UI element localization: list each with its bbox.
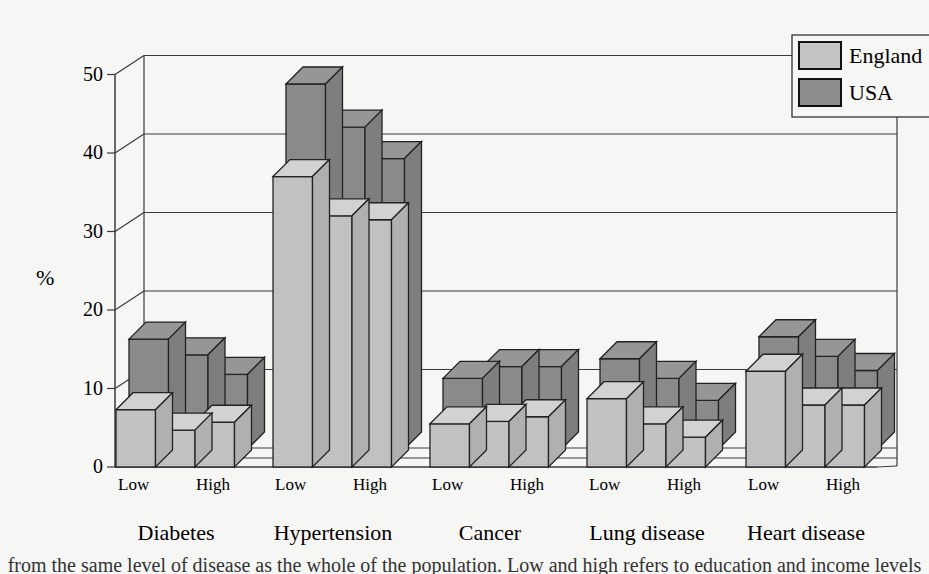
category-label: Hypertension [274,520,393,545]
legend: EnglandUSA [792,35,929,117]
xsub-label-high: High [196,475,231,494]
xsub-label-low: Low [432,475,464,494]
floor-edge [877,466,897,467]
ytick-label: 10 [83,377,103,399]
legend-swatch-england [799,42,841,69]
axis-labels: 01020304050%LowHighDiabetesLowHighHypert… [36,63,865,546]
xsub-label-high: High [667,475,702,494]
ytick-label: 30 [83,220,103,242]
bars-group [116,67,895,467]
bar-england-heart-disease-0 [746,354,803,467]
xsub-label-high: High [826,475,861,494]
category-label: Lung disease [589,520,704,545]
bar-england-cancer-0 [430,407,487,467]
gridline-diagonal [115,213,144,232]
gridline-diagonal [115,291,144,310]
y-axis-label: % [36,265,54,290]
ytick-label: 20 [83,298,103,320]
xsub-label-low: Low [589,475,621,494]
gridline-diagonal [115,56,144,75]
gridline-diagonal [115,134,144,153]
legend-label-england: England [849,43,922,68]
category-label: Diabetes [138,520,215,545]
figure-caption: from the same level of disease as the wh… [0,554,929,574]
bar-england-diabetes-0 [116,393,173,467]
legend-label-usa: USA [849,80,893,105]
bar-england-lung-disease-0 [587,382,644,467]
xsub-label-low: Low [118,475,150,494]
ytick-label: 40 [83,141,103,163]
ytick-label: 0 [93,455,103,477]
legend-swatch-usa [799,79,841,106]
ytick-label: 50 [83,63,103,85]
bar-england-hypertension-0 [273,160,330,467]
xsub-label-low: Low [748,475,780,494]
xsub-label-low: Low [275,475,307,494]
category-label: Cancer [459,520,522,545]
xsub-label-high: High [510,475,545,494]
xsub-label-high: High [353,475,388,494]
category-label: Heart disease [747,520,865,545]
